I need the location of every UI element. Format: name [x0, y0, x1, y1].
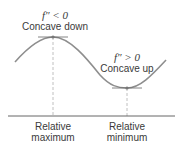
- min-condition-label: f″ > 0: [110, 52, 144, 63]
- max-description-label: Concave down: [20, 21, 90, 32]
- relative-minimum-line2: minimum: [97, 132, 157, 143]
- relative-minimum-line1: Relative: [97, 121, 157, 132]
- relative-minimum-label: Relative minimum: [97, 121, 157, 143]
- relative-maximum-label: Relative maximum: [23, 121, 83, 143]
- min-point: [125, 86, 128, 89]
- min-description-label: Concave up: [92, 63, 162, 74]
- relative-maximum-line2: maximum: [23, 132, 83, 143]
- max-condition-label: f″ < 0: [38, 10, 72, 21]
- max-point: [51, 35, 54, 38]
- relative-maximum-line1: Relative: [23, 121, 83, 132]
